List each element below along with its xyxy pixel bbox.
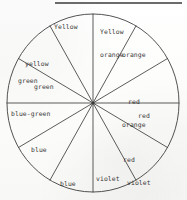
segment-label-yellow-green-line1: yellow (25, 61, 54, 69)
segment-label-red-violet-line1: red (123, 157, 151, 165)
segment-label-orange: orange (122, 52, 146, 59)
segment-label-blue: blue (31, 147, 47, 154)
segment-label-yellow-orange: Yellow orange (100, 14, 124, 75)
segment-label-violet: violet (96, 176, 120, 183)
segment-label-red-orange-line1: red (122, 99, 146, 107)
wheel-center-hub (91, 101, 94, 104)
segment-label-blue-green: blue-green (11, 111, 50, 118)
segment-label-yellow-orange-line2: orange (100, 52, 124, 60)
segment-label-red-violet-line2: violet (123, 180, 151, 188)
segment-label-red: red (138, 113, 150, 120)
segment-label-yellow-green: yellow green (25, 46, 54, 107)
segment-label-blue-violet-line1: blue (60, 181, 84, 189)
figure-page: Yellow Yellow orange orange red orange r… (0, 0, 187, 200)
segment-label-yellow-orange-line1: Yellow (100, 29, 124, 37)
segment-label-red-orange-line2: orange (122, 122, 146, 130)
spoke-330 (50, 26, 93, 103)
segment-label-blue-violet: blue violet (60, 166, 84, 200)
segment-label-yellow: Yellow (54, 24, 78, 31)
segment-label-yellow-green-line2: green (25, 84, 54, 92)
segment-label-red-violet: red violet (123, 142, 151, 200)
